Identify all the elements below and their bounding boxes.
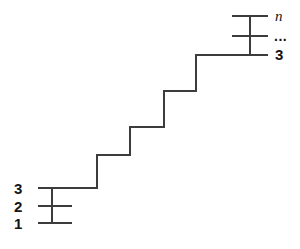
tier-label-bottom-1: 1: [14, 216, 22, 231]
tier-label-top-n: n: [275, 9, 283, 24]
tier-label-bottom-3: 3: [14, 181, 22, 196]
staircase-step-path: [38, 55, 268, 188]
staircase-diagram-graphic: [0, 0, 300, 249]
diagram-canvas: 3 2 1 n ... 3: [0, 0, 300, 249]
tier-label-bottom-2: 2: [14, 199, 22, 214]
tier-label-top-3: 3: [275, 47, 283, 62]
tier-label-top-ellipsis: ...: [274, 29, 287, 43]
